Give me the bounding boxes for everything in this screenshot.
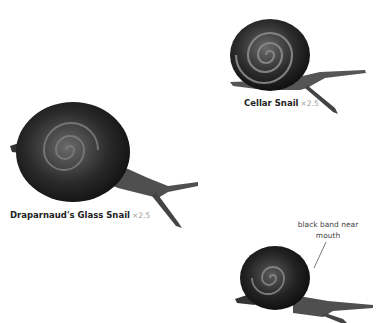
annotation-line-2: mouth	[296, 230, 360, 241]
draparnauds-glass-snail-label: Draparnaud's Glass Snail×2.5	[10, 210, 150, 220]
scale-factor: ×2.5	[300, 99, 318, 108]
annotation-line-1: black band near	[296, 219, 360, 230]
black-band-annotation: black band near mouth	[296, 219, 360, 241]
annotation-leader-line	[310, 240, 330, 270]
species-name: Draparnaud's Glass Snail	[10, 210, 130, 220]
cellar-snail-label: Cellar Snail×2.5	[244, 98, 319, 108]
third-snail-illustration	[233, 235, 383, 323]
scale-factor: ×2.5	[132, 211, 150, 220]
species-name: Cellar Snail	[244, 98, 298, 108]
